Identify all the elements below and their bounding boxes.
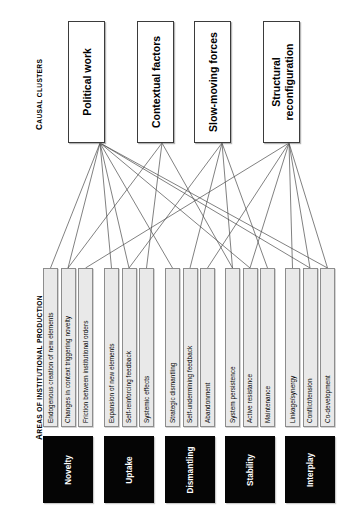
connector-political-work-to-novelty-0 [51,143,101,268]
item-label-strategic-dismantling: Strategic dismantling [169,363,176,423]
item-box-system-persistence[interactable]: System persistence [225,268,240,427]
item-label-systemic-effects: Systemic effects [143,376,150,423]
item-box-systemic-effects[interactable]: Systemic effects [139,268,154,427]
cluster-box-slow-moving-forces[interactable]: Slow-moving forces [194,21,231,143]
item-box-abandonment[interactable]: Abandonment [200,268,215,427]
item-label-endogenous-creation-of-new-elements: Endogenous creation of new elements [47,313,54,423]
area-label-stability: Stability [246,454,255,486]
connector-political-work-to-interplay-2 [100,143,328,268]
item-label-self-undermining-feedback: Self-undermining feedback [186,346,193,423]
connector-structural-reconfiguration-to-novelty-2 [86,143,290,268]
item-label-friction-between-institutional-orders: Friction between institutional orders [82,321,89,423]
connector-political-work-to-uptake-0 [100,143,112,268]
cluster-label-contextual-factors: Contextual factors [149,36,162,128]
connector-structural-reconfiguration-to-interplay-2 [289,143,328,268]
connector-political-work-to-interplay-1 [100,143,310,268]
area-label-interplay: Interplay [306,452,315,486]
item-box-friction-between-institutional-orders[interactable]: Friction between institutional orders [78,268,93,427]
item-label-maintenance: Maintenance [264,386,271,423]
area-box-interplay[interactable]: Interplay [285,436,335,503]
item-box-maintenance[interactable]: Maintenance [260,268,275,427]
connector-slow-moving-forces-to-stability-2 [222,143,268,268]
item-label-changes-in-context-triggering-novelty: Changes in context triggering novelty [64,316,71,423]
item-box-endogenous-creation-of-new-elements[interactable]: Endogenous creation of new elements [43,268,58,427]
cluster-label-political-work: Political work [80,48,93,116]
item-label-active-resistance: Active resistance [246,374,253,423]
item-label-co-development: Co-development [324,375,331,423]
item-box-active-resistance[interactable]: Active resistance [243,268,258,427]
area-box-novelty[interactable]: Novelty [43,436,93,503]
connector-political-work-to-novelty-1 [68,143,100,268]
connector-slow-moving-forces-to-dismantling-1 [190,143,222,268]
connector-structural-reconfiguration-to-dismantling-2 [208,143,290,268]
area-label-uptake: Uptake [125,456,134,483]
item-box-strategic-dismantling[interactable]: Strategic dismantling [165,268,180,427]
item-box-changes-in-context-triggering-novelty[interactable]: Changes in context triggering novelty [61,268,76,427]
connector-contextual-factors-to-stability-0 [162,143,233,268]
connector-contextual-factors-to-uptake-2 [147,143,163,268]
item-label-self-reinforcing-feedback: Self-reinforcing feedback [125,351,132,423]
diagram-canvas: CAUSAL CLUSTERS AREAS OF INSTITUTIONAL P… [0,0,350,519]
area-label-dismantling: Dismantling [186,446,195,493]
connector-structural-reconfiguration-to-stability-1 [250,143,289,268]
item-label-abandonment: Abandonment [204,383,211,423]
item-box-self-reinforcing-feedback[interactable]: Self-reinforcing feedback [122,268,137,427]
cluster-box-structural-reconfiguration[interactable]: Structuralreconfiguration [263,21,300,143]
cluster-box-political-work[interactable]: Political work [68,21,105,143]
area-box-stability[interactable]: Stability [225,436,275,503]
connector-political-work-to-dismantling-0 [100,143,173,268]
item-label-conflict-tension: Conflict/tension [306,379,313,424]
item-box-co-development[interactable]: Co-development [320,268,335,427]
connector-contextual-factors-to-novelty-1 [68,143,162,268]
item-box-self-undermining-feedback[interactable]: Self-undermining feedback [183,268,198,427]
connector-political-work-to-uptake-1 [100,143,129,268]
cluster-box-contextual-factors[interactable]: Contextual factors [137,21,174,143]
item-box-expansion-of-new-elements[interactable]: Expansion of new elements [104,268,119,427]
item-label-linkage-synergy: Linkage/synergy [289,376,296,423]
cluster-label-structural-reconfiguration: Structuralreconfiguration [269,43,294,120]
item-box-linkage-synergy[interactable]: Linkage/synergy [285,268,300,427]
connector-slow-moving-forces-to-uptake-1 [129,143,222,268]
item-box-conflict-tension[interactable]: Conflict/tension [303,268,318,427]
area-label-novelty: Novelty [64,455,73,485]
item-label-system-persistence: System persistence [229,366,236,423]
cluster-label-slow-moving-forces: Slow-moving forces [206,32,219,132]
area-box-uptake[interactable]: Uptake [104,436,154,503]
item-label-expansion-of-new-elements: Expansion of new elements [108,344,115,423]
area-box-dismantling[interactable]: Dismantling [165,436,215,503]
